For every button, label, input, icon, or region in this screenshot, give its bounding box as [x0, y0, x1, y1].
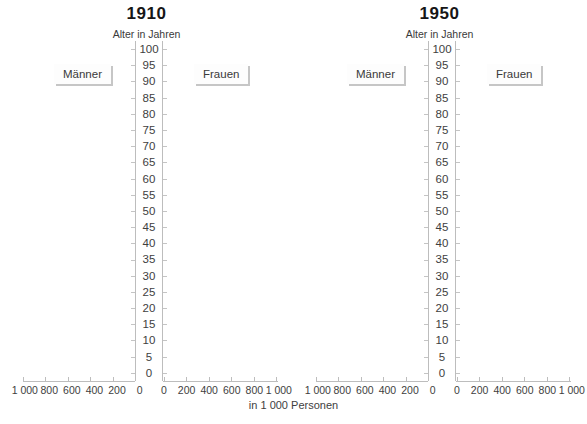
- x-axis-tick: [45, 377, 46, 381]
- x-axis-tick: [406, 377, 407, 381]
- age-tick-label: 85: [429, 90, 455, 106]
- age-tick-label: 100: [429, 41, 455, 57]
- x-axis-tick: [186, 377, 187, 381]
- x-axis-tick: [68, 377, 69, 381]
- x-axis-tick: [428, 377, 429, 381]
- x-axis-tick-label: 400: [376, 384, 399, 396]
- x-axis-tick-label: 0: [446, 384, 469, 396]
- age-tick-label: 80: [136, 106, 162, 122]
- x-axis-labels-women: 02004006008001 000: [446, 384, 582, 396]
- x-axis-tick: [276, 377, 277, 381]
- x-axis-tick: [135, 377, 136, 381]
- x-axis-tick: [23, 377, 24, 381]
- pyramid-panel-1950: 1950 Alter in Jahren Männer Frauen 10095…: [293, 0, 586, 424]
- x-axis-tick: [502, 377, 503, 381]
- x-axis-tick: [164, 377, 165, 381]
- x-axis-unit-label: in 1 000 Personen: [0, 399, 587, 411]
- age-tick-label: 0: [136, 365, 162, 381]
- age-tick-label: 10: [136, 332, 162, 348]
- age-tick-label: 45: [136, 219, 162, 235]
- age-tick-label: 55: [429, 187, 455, 203]
- women-legend-label: Frauen: [487, 64, 541, 84]
- x-axis-line-women: [163, 381, 278, 382]
- age-tick-label: 15: [136, 316, 162, 332]
- x-axis-tick-label: 1 000: [559, 384, 585, 396]
- panel-year-title: 1910: [0, 4, 293, 24]
- panel-year-title: 1950: [293, 4, 586, 24]
- x-axis-tick-label: 200: [106, 384, 129, 396]
- x-axis-labels-men: 1 0008006004002000: [12, 384, 148, 396]
- age-tick-label: 5: [429, 349, 455, 365]
- x-axis-tick-label: 600: [354, 384, 377, 396]
- x-axis-tick-label: 1 000: [12, 384, 38, 396]
- age-tick-label: 40: [429, 235, 455, 251]
- x-axis-tick-label: 1 000: [266, 384, 292, 396]
- x-axis-tick: [338, 377, 339, 381]
- age-tick-label: 5: [136, 349, 162, 365]
- x-axis-tick-label: 800: [243, 384, 266, 396]
- x-axis-ticks-women: [457, 377, 571, 381]
- x-axis-tick: [383, 377, 384, 381]
- x-axis-ticks-women: [164, 377, 278, 381]
- x-axis-tick: [113, 377, 114, 381]
- men-legend-label: Männer: [54, 64, 111, 84]
- age-tick-label: 35: [429, 251, 455, 267]
- x-axis-labels-men: 1 0008006004002000: [305, 384, 441, 396]
- x-axis-labels-women: 02004006008001 000: [153, 384, 289, 396]
- age-tick-label: 40: [136, 235, 162, 251]
- age-tick-label: 85: [136, 90, 162, 106]
- x-axis-tick-label: 400: [198, 384, 221, 396]
- x-axis-tick: [524, 377, 525, 381]
- x-axis-tick-label: 1 000: [305, 384, 331, 396]
- age-tick-label: 50: [136, 203, 162, 219]
- x-axis-tick-label: 200: [175, 384, 198, 396]
- x-axis-tick-label: 800: [38, 384, 61, 396]
- x-axis-ticks-men: [316, 377, 430, 381]
- x-axis-tick: [361, 377, 362, 381]
- x-axis-tick-label: 0: [421, 384, 444, 396]
- x-axis-tick-label: 800: [536, 384, 559, 396]
- age-tick-label: 20: [429, 300, 455, 316]
- x-axis-tick: [547, 377, 548, 381]
- x-axis-line-men: [316, 381, 428, 382]
- age-tick-label: 70: [136, 138, 162, 154]
- x-axis-tick: [90, 377, 91, 381]
- age-tick-label: 95: [429, 57, 455, 73]
- age-tick-label: 15: [429, 316, 455, 332]
- age-tick-label: 20: [136, 300, 162, 316]
- men-legend-label: Männer: [347, 64, 404, 84]
- x-axis-tick: [569, 377, 570, 381]
- x-axis-tick-label: 400: [491, 384, 514, 396]
- age-axis-title: Alter in Jahren: [0, 28, 293, 40]
- x-axis-line-women: [456, 381, 571, 382]
- age-tick-label: 50: [429, 203, 455, 219]
- age-tick-label: 45: [429, 219, 455, 235]
- age-tick-label: 0: [429, 365, 455, 381]
- age-axis: 1009590858075706560555045403530252015105…: [135, 41, 163, 381]
- age-tick-label: 30: [429, 268, 455, 284]
- x-axis-tick: [254, 377, 255, 381]
- age-tick-label: 10: [429, 332, 455, 348]
- x-axis-tick-label: 200: [399, 384, 422, 396]
- x-axis-tick: [209, 377, 210, 381]
- age-tick-label: 70: [429, 138, 455, 154]
- x-axis-tick: [457, 377, 458, 381]
- age-tick-label: 25: [429, 284, 455, 300]
- age-axis-title: Alter in Jahren: [293, 28, 586, 40]
- age-tick-label: 25: [136, 284, 162, 300]
- age-tick-label: 35: [136, 251, 162, 267]
- x-axis-tick-label: 400: [83, 384, 106, 396]
- age-tick-label: 100: [136, 41, 162, 57]
- pyramid-panel-1910: 1910 Alter in Jahren Männer Frauen 10095…: [0, 0, 293, 424]
- x-axis-tick-label: 600: [61, 384, 84, 396]
- women-legend-label: Frauen: [194, 64, 248, 84]
- x-axis-tick: [316, 377, 317, 381]
- x-axis-tick-label: 200: [468, 384, 491, 396]
- age-tick-label: 30: [136, 268, 162, 284]
- age-tick-label: 90: [429, 73, 455, 89]
- age-tick-label: 80: [429, 106, 455, 122]
- x-axis-tick: [231, 377, 232, 381]
- x-axis-ticks-men: [23, 377, 137, 381]
- age-tick-label: 60: [136, 171, 162, 187]
- age-tick-label: 75: [429, 122, 455, 138]
